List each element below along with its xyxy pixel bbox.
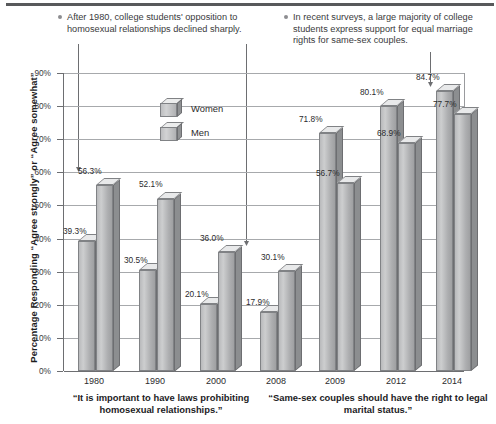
bar-value-label: 52.1%: [139, 179, 163, 189]
chart-figure: After 1980, college students' opposition…: [0, 0, 496, 424]
gridline: [64, 106, 464, 107]
y-axis-tick-label: 20%: [17, 300, 51, 310]
annotation-left: After 1980, college students' opposition…: [58, 12, 284, 35]
bar-women-2014: [436, 91, 453, 371]
legend-label-women: Women: [191, 103, 223, 114]
bar-value-label: 71.8%: [299, 114, 323, 124]
bar-men-2014: [454, 114, 471, 371]
bar-value-label: 36.0%: [200, 233, 224, 243]
bar-men-2009: [337, 183, 354, 371]
y-axis-tick-label: 0%: [17, 366, 51, 376]
bar-value-label: 80.1%: [360, 87, 384, 97]
bar-value-label: 30.5%: [124, 255, 148, 265]
y-axis-tick-label: 70%: [17, 134, 51, 144]
y-axis-tick-mark: [57, 371, 63, 372]
x-axis-tick-label-1980: 1980: [67, 376, 121, 386]
legend-swatch-icon: [160, 122, 177, 137]
bar-men-2008: [278, 271, 295, 371]
legend-swatch-icon: [160, 98, 177, 113]
legend-label-men: Men: [191, 127, 209, 138]
bar-value-label: 20.1%: [185, 289, 209, 299]
bar-value-label: 84.7%: [416, 72, 440, 82]
y-axis-title: Percentage Responding “Agree strongly” o…: [28, 68, 39, 368]
bar-men-1990: [157, 199, 174, 372]
plot-area: [63, 73, 465, 371]
x-axis-tick-label-2009: 2009: [308, 376, 362, 386]
bar-women-1980: [78, 241, 95, 371]
bar-women-1990: [139, 270, 156, 371]
bar-value-label: 56.3%: [78, 166, 102, 176]
gridline: [64, 73, 464, 74]
bar-value-label: 77.7%: [433, 99, 457, 109]
x-axis-tick-label-1990: 1990: [128, 376, 182, 386]
top-rule-divider: [6, 3, 494, 6]
x-axis-tick-label-2014: 2014: [425, 376, 479, 386]
bar-women-2008: [260, 312, 277, 371]
bullet-icon: [58, 15, 62, 19]
bar-men-2012: [398, 143, 415, 371]
y-axis-tick-label: 80%: [17, 101, 51, 111]
y-axis-tick-label: 10%: [17, 333, 51, 343]
group-caption-1: “It is important to have laws prohibitin…: [46, 392, 276, 415]
bar-women-2000: [200, 304, 217, 371]
annotation-right: In recent surveys, a large majority of c…: [284, 12, 492, 47]
bullet-icon: [284, 15, 288, 19]
gridline: [64, 371, 464, 372]
group-caption-2: “Same-sex couples should have the right …: [263, 392, 493, 415]
y-axis-tick-label: 30%: [17, 267, 51, 277]
bar-value-label: 30.1%: [261, 252, 285, 262]
x-axis-tick-label-2000: 2000: [189, 376, 243, 386]
bar-value-label: 56.7%: [316, 168, 340, 178]
y-axis-tick-label: 90%: [17, 68, 51, 78]
bar-value-label: 17.9%: [246, 297, 270, 307]
y-axis-tick-label: 50%: [17, 200, 51, 210]
x-axis-tick-label-2008: 2008: [249, 376, 303, 386]
bar-men-1980: [96, 185, 113, 371]
bar-men-2000: [218, 252, 235, 371]
y-axis-tick-label: 60%: [17, 167, 51, 177]
annotation-left-text: After 1980, college students' opposition…: [67, 12, 284, 35]
annotation-right-text: In recent surveys, a large majority of c…: [293, 12, 492, 47]
y-axis-tick-label: 40%: [17, 234, 51, 244]
x-axis-tick-label-2012: 2012: [369, 376, 423, 386]
bar-value-label: 39.3%: [63, 226, 87, 236]
bar-women-2012: [380, 106, 397, 371]
bar-value-label: 68.9%: [377, 128, 401, 138]
